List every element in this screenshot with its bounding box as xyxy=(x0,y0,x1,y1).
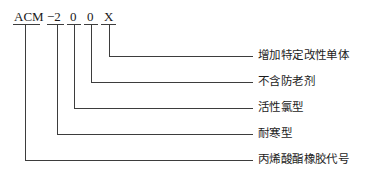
callout-label-modifier-monomer: 增加特定改性单体 xyxy=(258,50,349,62)
callout-label-cold-resistant-type: 耐寒型 xyxy=(258,128,292,140)
callout-label-acrylate-rubber-code: 丙烯酸酯橡胶代号 xyxy=(258,154,349,166)
leader-cold-resistant-type xyxy=(58,25,254,135)
leader-modifier-monomer xyxy=(110,25,254,57)
callout-label-active-chlorine-type: 活性氯型 xyxy=(258,102,304,114)
leader-acrylate-rubber-code xyxy=(26,25,254,161)
acm-nomenclature-diagram: ACM −2 0 0 X 增加特定改性单体 不含防老剂 活性氯型 耐寒型 丙烯酸… xyxy=(0,0,365,173)
callout-label-no-antioxidant: 不含防老剂 xyxy=(258,76,315,88)
leader-no-antioxidant xyxy=(92,25,254,83)
leader-active-chlorine-type xyxy=(75,25,254,109)
